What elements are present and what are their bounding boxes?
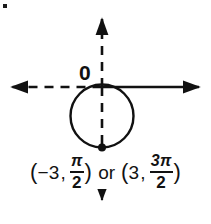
angle-fraction-1: π 2 — [70, 153, 84, 192]
plotted-point-dot — [98, 144, 106, 152]
angle-fraction-2: 3π 2 — [150, 153, 173, 192]
comma-2: , — [140, 163, 148, 182]
radius-value-1: −3 — [37, 163, 60, 182]
second-polar-point: ( 3 , 3π 2 ) — [121, 153, 181, 192]
open-paren-1: ( — [30, 161, 38, 183]
angle-denominator-2: 2 — [156, 173, 166, 193]
comma-1: , — [61, 163, 69, 182]
caption-row: ( −3 , π 2 ) or ( 3 , 3π 2 — [30, 153, 181, 192]
radius-value-2: 3 — [129, 163, 141, 182]
origin-label: 0 — [79, 62, 91, 83]
polar-figure-container: 0 ( −3 , π 2 ) or ( 3 , 3π — [0, 0, 211, 224]
angle-denominator-1: 2 — [72, 173, 82, 193]
figure-caption: ( −3 , π 2 ) or ( 3 , 3π 2 — [0, 153, 211, 192]
open-paren-2: ( — [121, 161, 129, 183]
caption-conjunction: or — [92, 163, 121, 182]
close-paren-1: ) — [85, 161, 93, 183]
angle-numerator-1: π — [70, 153, 84, 171]
angle-numerator-2: 3π — [150, 153, 173, 171]
first-polar-point: ( −3 , π 2 ) — [30, 153, 92, 192]
close-paren-2: ) — [174, 161, 182, 183]
